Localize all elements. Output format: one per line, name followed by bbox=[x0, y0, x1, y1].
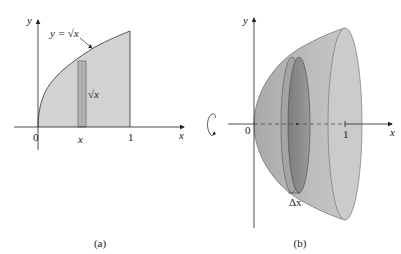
figure-canvas: y x 0 x 1 y = √x √x (a) bbox=[0, 0, 401, 254]
tick-x-label: x bbox=[77, 133, 83, 145]
y-axis-label: y bbox=[242, 14, 248, 26]
strip-height-label: √x bbox=[88, 88, 99, 100]
curve-pointer-arrow bbox=[80, 38, 92, 48]
delta-x-label: Δx bbox=[289, 196, 302, 208]
origin-label: 0 bbox=[245, 124, 251, 136]
disk-face bbox=[288, 57, 310, 193]
panel-a: y x 0 x 1 y = √x √x (a) bbox=[14, 14, 184, 250]
panel-b: y x 0 1 Δx (b) bbox=[208, 14, 396, 250]
rotation-arrow-icon bbox=[208, 114, 217, 136]
origin-label: 0 bbox=[33, 131, 39, 143]
disk-center-dot bbox=[296, 123, 298, 125]
tick-one-label: 1 bbox=[128, 131, 134, 143]
y-axis-label: y bbox=[26, 14, 32, 26]
caption-b: (b) bbox=[294, 237, 307, 250]
x-axis-label: x bbox=[178, 129, 184, 141]
tick-one-label: 1 bbox=[343, 128, 349, 140]
curve-equation-label: y = √x bbox=[49, 27, 79, 39]
x-axis-label: x bbox=[389, 126, 395, 138]
caption-a: (a) bbox=[94, 237, 107, 250]
